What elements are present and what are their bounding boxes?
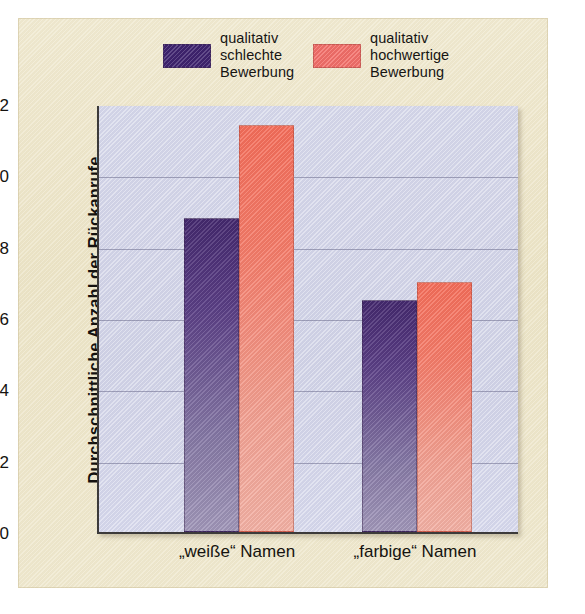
bar-series-0-group-1 bbox=[362, 300, 417, 532]
bar-series-0-group-0 bbox=[184, 218, 239, 532]
legend-entry-series-1: qualitativ hochwertige Bewerbung bbox=[313, 30, 449, 81]
y-axis-tick-label: 6 bbox=[0, 310, 9, 330]
x-axis-tick-label: „weiße“ Namen bbox=[179, 542, 295, 562]
x-axis-tick-label: „farbige“ Namen bbox=[354, 542, 477, 562]
legend-label-series-0: qualitativ schlechte Bewerbung bbox=[220, 30, 294, 81]
gridline bbox=[99, 249, 518, 250]
legend-swatch-icon-series-1 bbox=[313, 44, 361, 68]
legend-entry-series-0: qualitativ schlechte Bewerbung bbox=[163, 30, 294, 81]
chart-figure: qualitativ schlechte Bewerbung qualitati… bbox=[0, 0, 585, 614]
gridline bbox=[99, 177, 518, 178]
bar-series-1-group-0 bbox=[239, 125, 294, 532]
y-axis-tick-label: 8 bbox=[0, 239, 9, 259]
plot-area bbox=[97, 106, 518, 534]
y-axis-tick-label: 4 bbox=[0, 381, 9, 401]
legend-label-series-1: qualitativ hochwertige Bewerbung bbox=[370, 30, 449, 81]
y-axis-tick-label: 10 bbox=[0, 167, 9, 187]
y-axis-tick-label: 12 bbox=[0, 96, 9, 116]
bar-series-1-group-1 bbox=[417, 282, 472, 532]
legend-swatch-icon-series-0 bbox=[163, 44, 211, 68]
y-axis-tick-label: 2 bbox=[0, 453, 9, 473]
chart-paper-panel: qualitativ schlechte Bewerbung qualitati… bbox=[18, 18, 548, 588]
chart-legend: qualitativ schlechte Bewerbung qualitati… bbox=[158, 30, 538, 92]
plot-frame: Durchschnittliche Anzahl der Rückanrufe … bbox=[97, 106, 518, 534]
y-axis-tick-label: 0 bbox=[0, 524, 9, 544]
